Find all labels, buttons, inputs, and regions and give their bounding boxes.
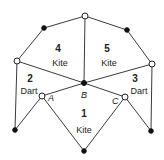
edge-upperright-right	[127, 30, 152, 64]
edge-C-bottom	[84, 97, 125, 151]
tile-2-shape: Dart	[20, 86, 38, 96]
point-label-C: C	[112, 96, 119, 106]
tile-4-number: 4	[55, 43, 61, 54]
edge-right-bottomright	[151, 64, 152, 131]
edge-top-upperright	[85, 16, 127, 30]
vertex-upper-right	[125, 28, 130, 33]
tile-5-number: 5	[104, 43, 110, 54]
edge-C-B	[84, 83, 125, 97]
point-label-A: A	[47, 93, 54, 103]
edge-A-bottomleft	[15, 96, 42, 130]
vertex-bottom	[82, 149, 87, 154]
tile-4-shape: Kite	[52, 58, 68, 68]
vertex-C	[122, 94, 128, 100]
edge-top-upperleft	[44, 16, 85, 28]
vertex-B	[82, 81, 87, 86]
edge-A-bottom	[42, 96, 84, 151]
edge-upperleft-left	[17, 28, 44, 61]
edge-C-bottomright	[125, 97, 151, 131]
tile-2-number: 2	[27, 73, 33, 84]
vertex-top	[82, 13, 88, 19]
kite-dart-diagram: 4 Kite 5 Kite 2 Dart 3 Dart 1 Kite A B C	[0, 0, 164, 160]
vertex-bottom-left	[13, 128, 18, 133]
edge-left-bottomleft	[15, 61, 17, 130]
point-label-B: B	[81, 90, 87, 100]
tile-3-number: 3	[132, 73, 138, 84]
tile-1-shape: Kite	[76, 125, 92, 135]
vertex-left	[14, 58, 20, 64]
edge-right-B	[84, 64, 152, 83]
tile-3-shape: Dart	[130, 86, 148, 96]
tile-1-number: 1	[81, 108, 87, 119]
tile-5-shape: Kite	[101, 58, 117, 68]
vertex-upper-left	[42, 26, 47, 31]
vertex-A	[39, 93, 45, 99]
vertex-bottom-right	[149, 129, 154, 134]
edge-top-B	[84, 16, 85, 83]
vertex-right	[149, 61, 155, 67]
point-labels: A B C	[47, 90, 119, 106]
